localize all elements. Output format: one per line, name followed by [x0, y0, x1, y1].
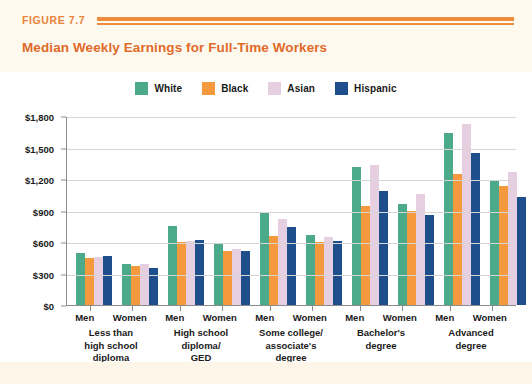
bar-black: [499, 186, 508, 305]
sex-label-row: MenWomen: [426, 312, 516, 323]
sex-label-row: MenWomen: [336, 312, 426, 323]
header-rule-decoration: [97, 15, 514, 25]
bar-white: [444, 133, 453, 305]
bar-white: [122, 264, 131, 305]
figure-page: FIGURE 7.7 Median Weekly Earnings for Fu…: [0, 0, 532, 384]
gridline: [67, 180, 516, 181]
bar-black: [315, 242, 324, 305]
bar-asian: [324, 237, 333, 305]
header-rule-thick: [97, 17, 514, 21]
x-axis-tick-mark: [180, 306, 181, 311]
x-axis-tick-mark: [492, 306, 493, 311]
x-axis-tick-mark: [222, 306, 223, 311]
sex-label: Men: [75, 312, 94, 323]
sex-label: Men: [435, 312, 454, 323]
x-axis-tick-mark: [360, 306, 361, 311]
bar-asian: [370, 165, 379, 305]
chart-title: Median Weekly Earnings for Full-Time Wor…: [22, 40, 327, 55]
bar-hispanic: [195, 240, 204, 305]
x-axis-tick-mark: [402, 306, 403, 311]
gridline: [67, 243, 516, 244]
figure-header-row: FIGURE 7.7: [22, 14, 522, 26]
bar-white: [168, 226, 177, 305]
gridline: [67, 275, 516, 276]
x-label-group: MenWomenSome college/ associate's degree: [246, 312, 336, 362]
figure-number-label: FIGURE 7.7: [22, 14, 85, 26]
x-label-group: MenWomenAdvanced degree: [426, 312, 516, 362]
sex-label: Men: [345, 312, 364, 323]
bar-black: [85, 258, 94, 305]
bar-black: [361, 206, 370, 305]
bar-hispanic: [287, 227, 296, 305]
y-axis-tick-label: $300: [33, 269, 54, 280]
bar-hispanic: [241, 251, 250, 305]
x-label-group: MenWomenBachelor's degree: [336, 312, 426, 362]
bar-asian: [186, 241, 195, 305]
sex-label: Women: [293, 312, 327, 323]
sex-label: Women: [203, 312, 237, 323]
education-label: Less than high school diploma: [84, 327, 137, 365]
y-axis-tick-label: $1,500: [25, 143, 54, 154]
y-axis-tick-label: $0: [43, 301, 54, 312]
bar-white: [306, 235, 315, 305]
bar-black: [407, 211, 416, 306]
bar-white: [260, 212, 269, 305]
x-axis-tick-mark: [270, 306, 271, 311]
bar-black: [453, 174, 462, 305]
bar-hispanic: [471, 153, 480, 305]
y-axis-tick-label: $1,800: [25, 112, 54, 123]
sex-label-row: MenWomen: [156, 312, 246, 323]
bar-black: [131, 266, 140, 305]
bar-asian: [508, 172, 517, 305]
gridline: [67, 212, 516, 213]
bottom-band: [0, 362, 532, 384]
bar-asian: [416, 194, 425, 305]
y-axis-tick-label: $600: [33, 238, 54, 249]
bar-black: [223, 251, 232, 305]
plot-wrapper: $1,800$1,500$1,200$900$600$300$0 MenWome…: [0, 72, 532, 362]
bar-hispanic: [379, 191, 388, 305]
education-label: Bachelor's degree: [357, 327, 405, 352]
bar-black: [177, 242, 186, 305]
sex-label: Women: [113, 312, 147, 323]
education-label: High school diploma/ GED: [174, 327, 228, 365]
y-axis: $1,800$1,500$1,200$900$600$300$0: [0, 72, 62, 362]
gridline: [67, 117, 516, 118]
bar-asian: [140, 264, 149, 305]
bar-white: [76, 253, 85, 306]
bar-asian: [232, 249, 241, 305]
x-axis-tick-mark: [132, 306, 133, 311]
x-axis-labels: MenWomenLess than high school diplomaMen…: [66, 312, 516, 362]
bar-hispanic: [517, 197, 526, 305]
gridline: [67, 149, 516, 150]
x-label-group: MenWomenHigh school diploma/ GED: [156, 312, 246, 362]
plot-area: [66, 117, 516, 306]
header-band: FIGURE 7.7 Median Weekly Earnings for Fu…: [0, 0, 532, 72]
x-axis-tick-mark: [312, 306, 313, 311]
bar-white: [352, 167, 361, 305]
header-rule-thin: [97, 23, 514, 25]
bar-asian: [94, 257, 103, 305]
sex-label: Women: [473, 312, 507, 323]
chart-panel: WhiteBlackAsianHispanic $1,800$1,500$1,2…: [0, 72, 532, 362]
education-label: Advanced degree: [448, 327, 493, 352]
sex-label-row: MenWomen: [66, 312, 156, 323]
sex-label-row: MenWomen: [246, 312, 336, 323]
sex-label: Men: [165, 312, 184, 323]
y-axis-tick-label: $900: [33, 206, 54, 217]
bar-asian: [462, 124, 471, 305]
x-axis-tick-mark: [450, 306, 451, 311]
bar-hispanic: [103, 256, 112, 305]
bar-black: [269, 236, 278, 305]
bar-asian: [278, 219, 287, 305]
education-label: Some college/ associate's degree: [259, 327, 323, 365]
bar-hispanic: [149, 268, 158, 305]
bar-hispanic: [333, 241, 342, 305]
bar-white: [398, 204, 407, 305]
sex-label: Men: [255, 312, 274, 323]
y-axis-tick-label: $1,200: [25, 175, 54, 186]
bar-hispanic: [425, 215, 434, 305]
sex-label: Women: [383, 312, 417, 323]
x-axis-tick-mark: [90, 306, 91, 311]
x-label-group: MenWomenLess than high school diploma: [66, 312, 156, 362]
